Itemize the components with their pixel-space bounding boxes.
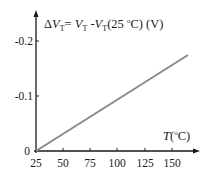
x-tick-label: 25: [30, 157, 42, 169]
x-tick-label: 75: [84, 157, 96, 169]
x-tick-label: 100: [108, 157, 126, 169]
y-tick-label: -0.2: [15, 35, 33, 47]
x-axis-title: T(oC): [163, 129, 190, 143]
y-tick-label: 0: [24, 145, 30, 157]
x-tick-label: 125: [136, 157, 154, 169]
y-axis-arrow-icon: [34, 10, 39, 17]
x-axis-arrow-icon: [193, 149, 200, 154]
x-tick-label: 150: [163, 157, 181, 169]
y-axis-title: ΔVT= VT -VT(25 oC) (V): [44, 17, 163, 33]
chart: 0 -0.1 -0.2 25 50 75 100 125 150 ΔVT= VT…: [0, 0, 206, 183]
x-tick-label: 50: [57, 157, 69, 169]
y-tick-label: -0.1: [15, 90, 33, 102]
